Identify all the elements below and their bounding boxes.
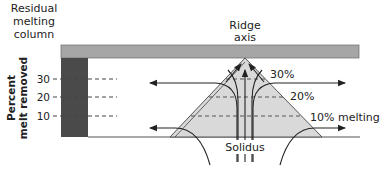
- melt-label-30: 30%: [270, 68, 294, 81]
- y-axis-label-line-1: Percent: [5, 75, 17, 121]
- solidus-label: Solidus: [225, 141, 265, 154]
- column-title-line-1: Residual: [11, 2, 57, 15]
- melt-label-10: 10% melting: [310, 111, 380, 124]
- ridge-title-line-2: axis: [234, 31, 256, 44]
- column-title-line-3: column: [14, 28, 55, 41]
- mid-ocean-ridge-melting-diagram: Residual melting column Ridge axis Perce…: [0, 0, 380, 174]
- y-tick-30: 30: [37, 73, 50, 85]
- column-title-line-2: melting: [13, 15, 55, 28]
- y-tick-10: 10: [37, 110, 50, 122]
- melt-label-20: 20%: [290, 90, 314, 103]
- y-axis-label: Percent melt removed: [5, 57, 29, 139]
- y-tick-20: 20: [37, 91, 50, 103]
- crust-bar: [61, 45, 359, 58]
- y-axis-label-line-2: melt removed: [17, 57, 29, 139]
